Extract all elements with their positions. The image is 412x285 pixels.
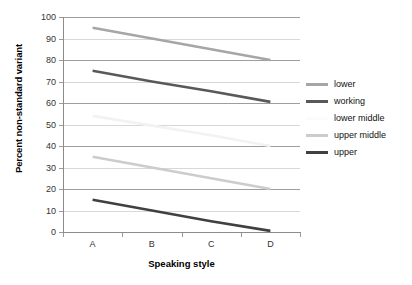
legend-label: working [334, 96, 365, 107]
x-axis-title: Speaking style [63, 258, 300, 269]
gridline [63, 103, 300, 104]
y-tick-label: 100 [28, 12, 56, 22]
series-line [93, 157, 271, 189]
gridline [63, 60, 300, 61]
legend-swatch [306, 83, 328, 86]
legend-swatch [306, 134, 328, 137]
series-line [93, 116, 271, 146]
y-tick-label: 0 [28, 227, 56, 237]
gridline [63, 82, 300, 83]
x-tick-label: D [250, 239, 290, 249]
legend-label: upper [334, 147, 357, 158]
gridline [63, 39, 300, 40]
legend-swatch [306, 100, 328, 103]
legend-item[interactable]: lower [306, 76, 410, 93]
gridline [63, 125, 300, 126]
legend-item[interactable]: upper middle [306, 127, 410, 144]
y-axis-line [63, 17, 64, 233]
y-tick-label: 80 [28, 55, 56, 65]
legend-item[interactable]: working [306, 93, 410, 110]
legend-label: lower [334, 79, 356, 90]
y-tick-label: 60 [28, 98, 56, 108]
gridline [63, 211, 300, 212]
x-tick-mark [182, 233, 183, 237]
legend-swatch [306, 117, 328, 120]
y-tick-label: 70 [28, 77, 56, 87]
gridline [63, 189, 300, 190]
y-tick-label: 50 [28, 120, 56, 130]
series-line [93, 28, 271, 60]
y-tick-label: 10 [28, 206, 56, 216]
y-tick-label: 30 [28, 163, 56, 173]
y-axis-title: Percent non-standard variant [13, 24, 24, 194]
x-tick-label: A [73, 239, 113, 249]
gridline [63, 168, 300, 169]
x-tick-label: B [132, 239, 172, 249]
gridline [63, 146, 300, 147]
x-tick-label: C [191, 239, 231, 249]
legend-swatch [306, 151, 328, 154]
legend-label: lower middle [334, 113, 385, 124]
gridline [63, 17, 300, 18]
series-line [93, 200, 271, 231]
legend-item[interactable]: upper [306, 144, 410, 161]
y-tick-label: 40 [28, 141, 56, 151]
x-tick-mark [122, 233, 123, 237]
y-tick-label: 20 [28, 184, 56, 194]
legend-item[interactable]: lower middle [306, 110, 410, 127]
legend-label: upper middle [334, 130, 386, 141]
line-chart-figure: Percent non-standard variant 10090807060… [0, 0, 412, 285]
chart-legend: lowerworkinglower middleupper middleuppe… [306, 76, 410, 161]
y-tick-label: 90 [28, 34, 56, 44]
x-tick-mark [63, 233, 64, 237]
series-line [93, 71, 271, 102]
x-tick-mark [241, 233, 242, 237]
x-tick-mark [300, 233, 301, 237]
